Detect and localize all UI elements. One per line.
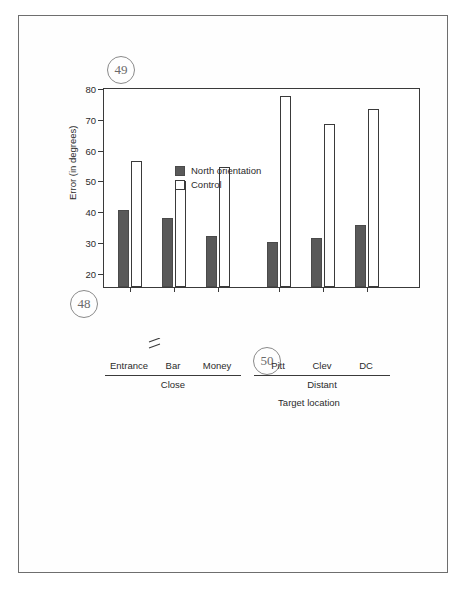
bar-control-entrance bbox=[131, 161, 142, 287]
x-label-money: Money bbox=[203, 360, 232, 371]
y-tick-label: 80 bbox=[85, 84, 96, 95]
x-tick-mark bbox=[174, 287, 175, 292]
legend-label-north-orientation: North orientation bbox=[191, 165, 261, 176]
chart-legend: North orientation Control bbox=[175, 165, 261, 193]
legend-item-north-orientation: North orientation bbox=[175, 165, 261, 176]
x-axis-title: Target location bbox=[278, 397, 340, 408]
y-tick-label: 20 bbox=[85, 268, 96, 279]
y-tick-label: 70 bbox=[85, 114, 96, 125]
x-label-bar: Bar bbox=[166, 360, 181, 371]
x-tick-mark bbox=[367, 287, 368, 292]
x-tick-mark bbox=[218, 287, 219, 292]
x-label-clev: Clev bbox=[312, 360, 331, 371]
bar-control-dc bbox=[368, 109, 379, 287]
x-label-pitt: Pitt bbox=[271, 360, 285, 371]
x-tick-mark bbox=[279, 287, 280, 292]
legend-item-control: Control bbox=[175, 179, 261, 190]
axis-break-icon bbox=[148, 338, 162, 358]
legend-label-control: Control bbox=[191, 179, 222, 190]
x-label-entrance: Entrance bbox=[110, 360, 148, 371]
y-tick-mark bbox=[98, 151, 104, 152]
y-tick-label: 30 bbox=[85, 237, 96, 248]
y-tick-mark bbox=[98, 120, 104, 121]
figure-ref-49: 49 bbox=[107, 56, 135, 84]
legend-swatch-north-orientation bbox=[175, 166, 185, 176]
bar-north-orientation-pitt bbox=[267, 242, 278, 287]
x-tick-mark bbox=[130, 287, 131, 292]
group-rule-distant bbox=[254, 375, 390, 376]
bar-north-orientation-entrance bbox=[118, 210, 129, 287]
legend-swatch-control bbox=[175, 180, 185, 190]
group-label-distant: Distant bbox=[307, 379, 337, 390]
x-label-dc: DC bbox=[359, 360, 373, 371]
bar-chart: Error (in degrees) 20304050607080 Entran… bbox=[71, 82, 431, 342]
y-tick-mark bbox=[98, 181, 104, 182]
y-tick-label: 60 bbox=[85, 145, 96, 156]
bar-control-clev bbox=[324, 124, 335, 287]
x-tick-mark bbox=[323, 287, 324, 292]
bar-control-bar bbox=[175, 181, 186, 287]
y-tick-label: 50 bbox=[85, 176, 96, 187]
bar-control-pitt bbox=[280, 96, 291, 287]
group-rule-close bbox=[105, 375, 241, 376]
bar-north-orientation-dc bbox=[355, 225, 366, 287]
y-tick-label: 40 bbox=[85, 207, 96, 218]
bar-north-orientation-clev bbox=[311, 238, 322, 287]
document-page: 49 48 50 Error (in degrees) 203040506070… bbox=[18, 15, 448, 573]
plot-area: 20304050607080 bbox=[103, 88, 420, 288]
y-tick-mark bbox=[98, 212, 104, 213]
y-tick-mark bbox=[98, 89, 104, 90]
group-label-close: Close bbox=[161, 379, 185, 390]
bar-north-orientation-money bbox=[206, 236, 217, 287]
y-tick-mark bbox=[98, 243, 104, 244]
bar-north-orientation-bar bbox=[162, 218, 173, 287]
y-tick-mark bbox=[98, 274, 104, 275]
y-axis-title: Error (in degrees) bbox=[67, 126, 78, 200]
